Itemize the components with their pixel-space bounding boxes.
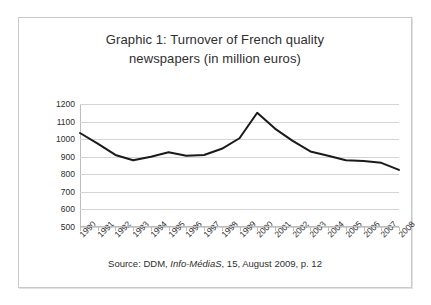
source-suffix: , 15, August 2009, p. 12 — [222, 258, 322, 269]
y-axis-tick-label: 1200 — [56, 100, 75, 109]
source-prefix: Source: DDM, — [108, 258, 170, 269]
y-axis-tick-label: 1000 — [56, 135, 75, 144]
y-axis-tick-label: 900 — [61, 152, 75, 161]
plot-area: 500600700800900100011001200 199019911992… — [80, 104, 399, 227]
series-polyline — [80, 113, 399, 170]
chart-title-line-2: newspapers (in million euros) — [19, 49, 411, 68]
source-caption: Source: DDM, Info-MédiaS, 15, August 200… — [19, 258, 411, 269]
y-axis-tick-label: 1100 — [57, 117, 75, 126]
chart-title-line-1: Graphic 1: Turnover of French quality — [19, 30, 411, 49]
y-axis-tick-label: 500 — [61, 223, 75, 232]
source-journal-name: Info-MédiaS — [170, 258, 221, 269]
y-axis-tick-label: 700 — [61, 188, 75, 197]
chart-title: Graphic 1: Turnover of French quality ne… — [19, 30, 411, 68]
x-axis-tick-label: 2008 — [397, 220, 416, 239]
figure-container: Graphic 1: Turnover of French quality ne… — [18, 17, 412, 288]
y-axis-tick-label: 800 — [61, 170, 75, 179]
data-series-line — [80, 104, 399, 227]
y-axis-tick-label: 600 — [61, 205, 75, 214]
